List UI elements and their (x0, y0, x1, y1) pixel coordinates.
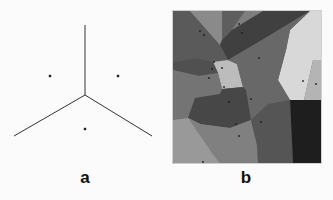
site-point (117, 75, 119, 77)
site-point (315, 83, 317, 85)
site-point (199, 30, 201, 32)
panel-a-label: a (80, 169, 89, 186)
site-point (258, 57, 260, 59)
site-point (238, 23, 240, 25)
site-point (211, 68, 213, 70)
voronoi-edge (14, 95, 85, 136)
site-point (203, 34, 205, 36)
site-point (235, 123, 237, 125)
site-point (228, 101, 230, 103)
voronoi-cell (290, 100, 321, 163)
panel-b-label: b (241, 169, 251, 186)
site-point (238, 135, 240, 137)
site-point (223, 86, 225, 88)
site-point (84, 128, 86, 130)
panel-a-voronoi-three-points (14, 25, 152, 136)
voronoi-edge (85, 95, 152, 136)
site-point (260, 121, 262, 123)
site-point (49, 75, 51, 77)
figure-canvas (0, 0, 333, 200)
site-point (221, 67, 223, 69)
site-point (202, 161, 204, 163)
site-point (302, 80, 304, 82)
site-point (208, 77, 210, 79)
site-point (213, 61, 215, 63)
site-point (241, 32, 243, 34)
panel-b-voronoi-tessellation (173, 11, 322, 164)
site-point (250, 98, 252, 100)
